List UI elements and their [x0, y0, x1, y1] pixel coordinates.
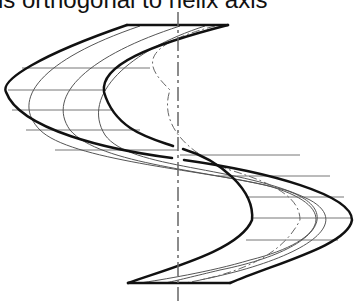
hatch-lines-lower [180, 155, 352, 240]
helix-diagram [0, 0, 358, 307]
